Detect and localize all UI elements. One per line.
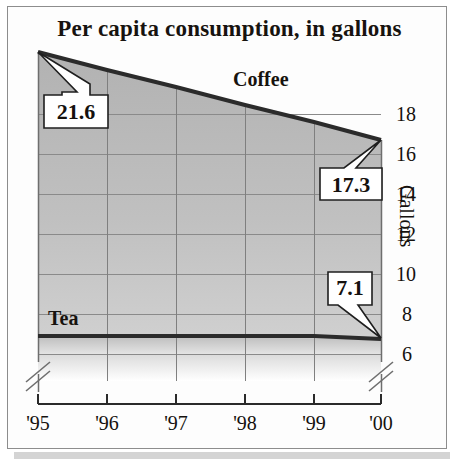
x-tick-label-95: '95 bbox=[11, 412, 65, 435]
x-axis bbox=[38, 394, 381, 404]
y-tick-label-8: 8 bbox=[402, 303, 412, 326]
series-label-tea: Tea bbox=[48, 307, 78, 330]
below-axis-wash bbox=[38, 355, 381, 381]
x-tick-label-98: '98 bbox=[218, 412, 272, 435]
x-tick-label-96: '96 bbox=[80, 412, 134, 435]
y-tick-label-6: 6 bbox=[402, 343, 412, 366]
plot-area bbox=[0, 0, 459, 466]
chart-figure: Per capita consumption, in gallons bbox=[0, 0, 459, 466]
x-tick-label-00: '00 bbox=[354, 412, 408, 435]
callout-value-coffee-end: 17.3 bbox=[320, 172, 382, 198]
y-axis-title: Gallons bbox=[395, 185, 418, 247]
y-tick-label-10: 10 bbox=[396, 263, 416, 286]
callout-value-coffee-start: 21.6 bbox=[44, 99, 108, 125]
series-label-coffee: Coffee bbox=[233, 68, 289, 91]
callout-value-tea-end: 7.1 bbox=[328, 275, 372, 301]
y-tick-label-18: 18 bbox=[396, 103, 416, 126]
tea-area bbox=[38, 336, 381, 355]
x-tick-label-97: '97 bbox=[149, 412, 203, 435]
x-tick-label-99: '99 bbox=[287, 412, 341, 435]
y-tick-label-16: 16 bbox=[396, 143, 416, 166]
